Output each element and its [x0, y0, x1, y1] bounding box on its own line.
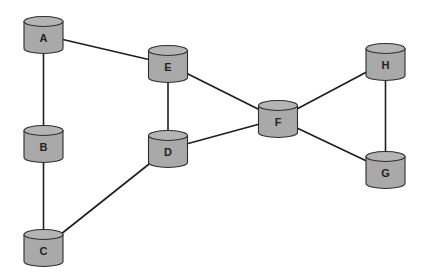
- node-label: F: [275, 116, 282, 128]
- cylinder-top-icon: [24, 126, 63, 136]
- cylinder-top-icon: [366, 152, 405, 162]
- node-label: E: [164, 61, 171, 73]
- node-b: B: [24, 126, 63, 163]
- node-a: A: [24, 17, 63, 54]
- network-diagram: ABCEDFHG: [0, 0, 427, 277]
- cylinder-top-icon: [366, 44, 405, 54]
- node-e: E: [149, 46, 188, 83]
- node-f: F: [259, 101, 298, 138]
- node-h: H: [366, 44, 405, 81]
- node-g: G: [366, 152, 405, 189]
- node-d: D: [149, 131, 188, 168]
- node-label: C: [40, 245, 48, 257]
- node-label: H: [382, 59, 390, 71]
- cylinder-top-icon: [259, 101, 298, 111]
- node-label: A: [40, 32, 48, 44]
- nodes-layer: ABCEDFHG: [24, 17, 405, 267]
- cylinder-top-icon: [24, 17, 63, 27]
- node-label: G: [381, 167, 390, 179]
- cylinder-top-icon: [24, 230, 63, 240]
- node-label: B: [40, 141, 48, 153]
- cylinder-top-icon: [149, 46, 188, 56]
- edges-layer: [44, 35, 386, 248]
- node-c: C: [24, 230, 63, 267]
- node-label: D: [164, 146, 172, 158]
- cylinder-top-icon: [149, 131, 188, 141]
